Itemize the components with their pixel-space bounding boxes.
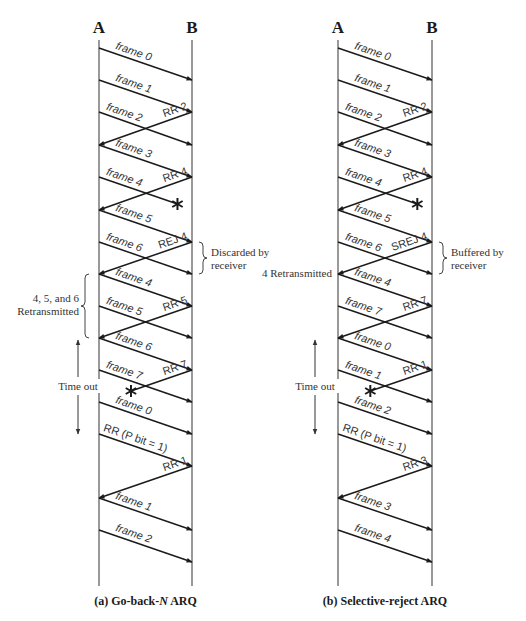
station-b-label: B <box>186 18 197 37</box>
frame-label: frame 2 <box>344 100 383 123</box>
ack-label: RR (P bit = 1) <box>102 421 169 454</box>
arq-diagram-figure: ABframe 0frame 1frame 2RR 2frame 3frame … <box>0 0 526 621</box>
diagram-canvas: ABframe 0frame 1frame 2RR 2frame 3frame … <box>0 0 526 621</box>
lost-frame-star-icon <box>126 385 136 397</box>
brace-icon <box>81 274 89 338</box>
annotation-note: Discarded byreceiver <box>199 242 270 274</box>
frame-arrow: frame 0 <box>99 39 192 80</box>
timeout-indicator: Time out <box>289 340 343 434</box>
ack-arrow: RR 3 <box>338 454 432 498</box>
note-text: 4 Retransmitted <box>262 267 332 279</box>
timeout-label: Time out <box>58 380 98 392</box>
frame-arrow: frame 0 <box>338 39 432 80</box>
timeout-indicator: Time out <box>52 340 106 434</box>
frame-arrow: frame 3 <box>338 489 432 530</box>
station-b-label: B <box>426 18 437 37</box>
diagram-caption: (b) Selective-reject ARQ <box>323 594 447 608</box>
ack-label: RR (P bit = 1) <box>341 421 408 454</box>
frame-arrow: frame 2 <box>99 521 192 562</box>
diagram-caption: (a) Go-back-N ARQ <box>94 594 197 608</box>
note-text: Discarded by <box>211 246 270 258</box>
note-text: Buffered by <box>451 246 504 258</box>
station-a-label: A <box>93 18 106 37</box>
lost-frame-star-icon <box>172 198 182 210</box>
note-text: 4, 5, and 6 <box>33 292 80 304</box>
frame-arrow: frame 1 <box>99 489 192 530</box>
lost-frame-star-icon <box>365 385 375 397</box>
go-back-n-panel: ABframe 0frame 1frame 2RR 2frame 3frame … <box>17 18 270 608</box>
annotation-note: Buffered byreceiver <box>439 242 504 274</box>
ack-label: REJ 4 <box>156 230 188 251</box>
ack-arrow: RR 1 <box>99 454 192 498</box>
annotation-note: 4, 5, and 6Retransmitted <box>17 274 89 338</box>
note-text: receiver <box>451 259 487 271</box>
station-a-label: A <box>332 18 345 37</box>
frame-arrow: frame 4 <box>338 521 432 562</box>
brace-icon <box>439 242 447 274</box>
annotation-note: 4 Retransmitted <box>262 267 332 279</box>
lost-frame-star-icon <box>412 198 422 210</box>
brace-icon <box>199 242 207 274</box>
frame-label: frame 2 <box>105 100 144 123</box>
note-text: Retransmitted <box>17 305 79 317</box>
note-text: receiver <box>211 259 247 271</box>
selective-reject-panel: ABframe 0frame 1frame 2RR 2frame 3frame … <box>262 18 504 608</box>
timeout-label: Time out <box>295 380 335 392</box>
